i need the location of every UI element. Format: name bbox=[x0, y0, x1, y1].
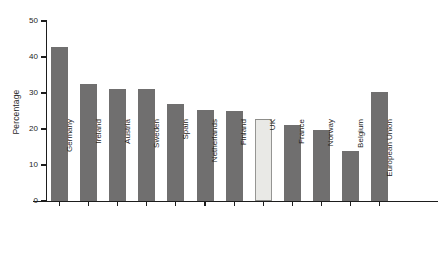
x-axis-label-ireland: Ireland bbox=[93, 119, 104, 209]
x-axis-tick-mark bbox=[204, 202, 205, 206]
x-axis-label-netherlands: Netherlands bbox=[209, 119, 220, 209]
x-axis-label-france: France bbox=[296, 119, 307, 209]
x-axis-tick-mark bbox=[292, 202, 293, 206]
x-axis-label-spain: Spain bbox=[180, 119, 191, 209]
x-axis-tick-mark bbox=[350, 202, 351, 206]
x-axis-label-finland: Finland bbox=[238, 119, 249, 209]
x-axis-label-belgium: Belgium bbox=[355, 119, 366, 209]
x-axis-tick-mark bbox=[321, 202, 322, 206]
x-axis-tick-mark bbox=[59, 202, 60, 206]
x-axis-label-sweden: Sweden bbox=[151, 119, 162, 209]
x-axis-label-uk: UK bbox=[267, 119, 278, 209]
x-axis-label-norway: Norway bbox=[325, 119, 336, 209]
bar-chart-figure: Percentage 01020304050 GermanyIrelandAus… bbox=[0, 0, 443, 279]
x-axis-label-germany: Germany bbox=[64, 119, 75, 209]
x-axis-tick-mark bbox=[379, 202, 380, 206]
x-axis-tick-mark bbox=[234, 202, 235, 206]
x-axis-label-european-union: European Union bbox=[384, 119, 395, 209]
x-axis-tick-mark bbox=[263, 202, 264, 206]
x-axis-label-austria: Austria bbox=[122, 119, 133, 209]
x-axis-tick-mark bbox=[117, 202, 118, 206]
x-axis-tick-mark bbox=[88, 202, 89, 206]
x-axis-tick-mark bbox=[175, 202, 176, 206]
x-axis-tick-mark bbox=[146, 202, 147, 206]
